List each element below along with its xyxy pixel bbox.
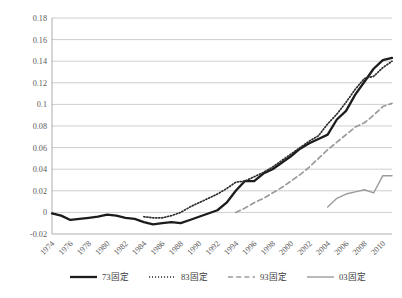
x-axis-tick-label: 1988: [167, 239, 185, 257]
y-axis-tick-labels: -0.0200.020.040.060.080.10.120.140.160.1…: [30, 14, 47, 239]
y-axis-tick-label: 0.1: [37, 100, 47, 109]
x-axis-tick-label: 1980: [94, 239, 112, 257]
y-axis-tick-label: 0.04: [33, 165, 47, 174]
legend-label-1: 83固定: [181, 271, 208, 282]
x-axis-tick-label: 1994: [222, 239, 240, 257]
line-chart-plot: -0.0200.020.040.060.080.10.120.140.160.1…: [0, 0, 402, 298]
y-axis-tick-label: 0.12: [33, 79, 47, 88]
x-axis-tick-label: 2004: [314, 239, 332, 257]
x-axis-tick-label: 1978: [75, 239, 93, 257]
series-line-2: [236, 103, 392, 212]
y-axis-tick-label: 0.02: [33, 187, 47, 196]
x-axis-tick-label: 2002: [296, 239, 314, 257]
x-axis-tick-label: 1996: [241, 239, 259, 257]
x-axis-tick-label: 1998: [259, 239, 277, 257]
x-axis-tick-label: 1984: [130, 239, 148, 257]
x-axis-tick-label: 1986: [149, 239, 167, 257]
x-axis-tick-labels: 1974197619781980198219841986198819901992…: [38, 239, 387, 257]
x-axis-tick-label: 2010: [369, 239, 387, 257]
series-line-1: [144, 61, 392, 218]
x-axis-tick-label: 1976: [57, 239, 75, 257]
gridlines-group: [52, 18, 392, 234]
legend-label-0: 73固定: [102, 271, 129, 282]
y-axis-tick-label: -0.02: [30, 230, 47, 239]
x-axis-tick-label: 1992: [204, 239, 222, 257]
chart-container: -0.0200.020.040.060.080.10.120.140.160.1…: [0, 0, 402, 298]
chart-legend: 73固定83固定93固定03固定: [70, 271, 366, 282]
x-axis-tick-label: 1982: [112, 239, 130, 257]
x-axis-tick-label: 1974: [38, 239, 56, 257]
series-line-3: [328, 176, 392, 207]
x-axis-tick-label: 2006: [333, 239, 351, 257]
y-axis-tick-label: 0.08: [33, 122, 47, 131]
y-axis-tick-label: 0.18: [33, 14, 47, 23]
x-axis-tick-label: 2008: [351, 239, 369, 257]
y-axis-tick-label: 0.16: [33, 36, 47, 45]
y-axis-tick-label: 0: [43, 208, 47, 217]
y-axis-tick-label: 0.06: [33, 144, 47, 153]
x-axis-tick-label: 2000: [277, 239, 295, 257]
legend-label-3: 03固定: [339, 271, 366, 282]
x-axis-tick-label: 1990: [185, 239, 203, 257]
y-axis-tick-label: 0.14: [33, 57, 47, 66]
legend-label-2: 93固定: [260, 271, 287, 282]
